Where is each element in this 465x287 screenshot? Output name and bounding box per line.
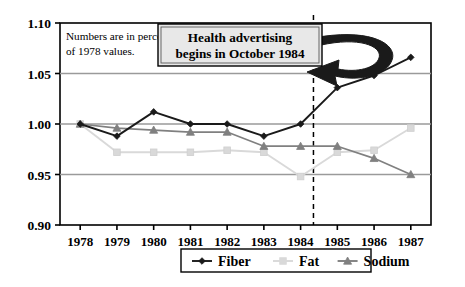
callout-line-1: Health advertising	[188, 30, 293, 45]
data-point-marker	[150, 149, 157, 156]
x-tick-label: 1986	[361, 234, 388, 249]
legend-items: FiberFatSodium	[192, 254, 410, 269]
y-tick-label: 1.05	[27, 67, 51, 82]
callout-line-2: begins in October 1984	[175, 46, 304, 61]
data-point-marker	[297, 173, 304, 180]
data-point-marker	[261, 149, 268, 156]
x-tick-label: 1982	[214, 234, 240, 249]
y-tick-label: 1.00	[27, 117, 51, 132]
y-tick-label: 1.10	[27, 16, 51, 31]
x-tick-label: 1980	[141, 234, 167, 249]
legend-label: Fat	[299, 254, 320, 269]
line-chart: 0.900.951.001.051.10 1978197919801981198…	[0, 0, 465, 287]
data-point-marker	[334, 149, 341, 156]
x-tick-label: 1983	[251, 234, 278, 249]
callout-annotation: Health advertising begins in October 198…	[158, 24, 322, 66]
x-tick-label: 1985	[324, 234, 351, 249]
y-tick-label: 0.95	[27, 168, 51, 183]
x-tick-label: 1981	[177, 234, 203, 249]
data-point-marker	[114, 149, 121, 156]
y-tick-label: 0.90	[27, 218, 51, 233]
data-point-marker	[407, 125, 414, 132]
data-point-marker	[371, 147, 378, 154]
x-tick-label: 1979	[104, 234, 131, 249]
data-point-marker	[280, 258, 287, 265]
data-point-marker	[224, 147, 231, 154]
note-line-2: of 1978 values.	[66, 45, 135, 57]
x-tick-label: 1984	[288, 234, 315, 249]
legend-label: Sodium	[364, 254, 410, 269]
x-tick-label: 1978	[67, 234, 94, 249]
data-point-marker	[187, 149, 194, 156]
x-tick-label: 1987	[398, 234, 425, 249]
legend-label: Fiber	[218, 254, 251, 269]
chart-container: 0.900.951.001.051.10 1978197919801981198…	[0, 0, 465, 287]
note-line-1: Numbers are in percent	[66, 30, 172, 42]
